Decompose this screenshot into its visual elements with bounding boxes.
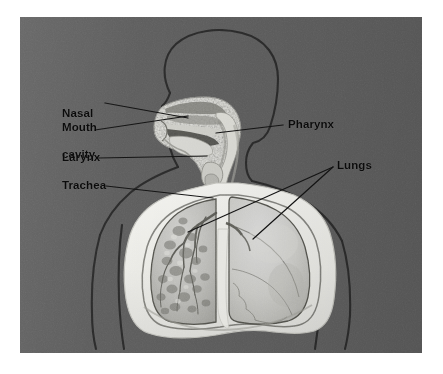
label-larynx: Larynx (62, 151, 100, 165)
label-lungs: Lungs (337, 159, 372, 173)
label-mouth: Mouth (62, 121, 97, 135)
figure-root: Nasal cavity Mouth Larynx Trachea Pharyn… (0, 0, 443, 374)
label-trachea: Trachea (62, 179, 106, 193)
label-nasal-cavity-line1: Nasal (62, 107, 95, 121)
head-airway-tissue (154, 97, 241, 188)
label-pharynx: Pharynx (288, 118, 334, 132)
diagram-panel: Nasal cavity Mouth Larynx Trachea Pharyn… (20, 17, 422, 353)
